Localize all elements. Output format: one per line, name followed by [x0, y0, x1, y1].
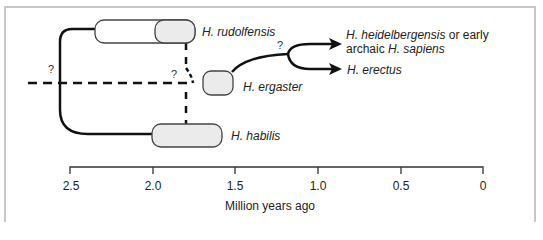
uncertainty-mark-ancestor: ?: [48, 63, 54, 75]
tick-label-1.5: 1.5: [227, 179, 244, 193]
axis-title: Million years ago: [225, 199, 315, 213]
tick-label-1.0: 1.0: [310, 179, 327, 193]
branch-heidelbergensis: [288, 44, 332, 54]
label-heidelbergensis-name: H. heidelbergensis: [346, 28, 445, 42]
tick-label-2.5: 2.5: [63, 179, 80, 193]
label-heidelbergensis-or: or early: [445, 28, 488, 42]
label-ergaster: H. ergaster: [243, 80, 302, 94]
label-erectus: H. erectus: [347, 63, 402, 77]
axis-ticks: [153, 167, 401, 174]
label-archaic-sapiens: archaic H. sapiens: [346, 42, 445, 56]
time-axis-line: [70, 167, 483, 174]
branch-habilis: [60, 78, 152, 134]
label-sapiens-name: H. sapiens: [388, 42, 445, 56]
label-archaic-prefix: archaic: [346, 42, 388, 56]
branch-rudolfensis: [60, 29, 95, 78]
range-bar-rudolfensis-shaded: [155, 20, 195, 43]
label-habilis: H. habilis: [231, 129, 280, 143]
label-heidelbergensis: H. heidelbergensis or early: [346, 28, 489, 42]
range-bar-habilis: [152, 124, 222, 147]
branch-erectus: [288, 54, 332, 69]
uncertainty-mark-branch: ?: [277, 39, 283, 51]
tick-label-0: 0: [480, 179, 487, 193]
dashed-bend: [186, 68, 193, 83]
uncertainty-mark-link: ?: [171, 68, 177, 80]
tick-label-2.0: 2.0: [145, 179, 162, 193]
branch-ergaster: [232, 54, 288, 72]
range-bar-ergaster: [203, 71, 233, 95]
tick-label-0.5: 0.5: [393, 179, 410, 193]
label-rudolfensis: H. rudolfensis: [202, 25, 275, 39]
